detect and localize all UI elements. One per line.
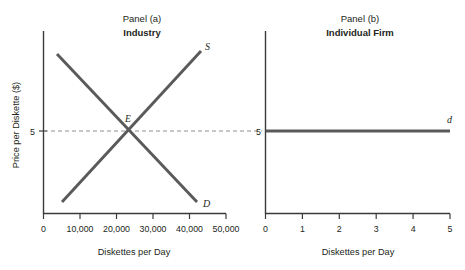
panel-a-x-tick-label-50000: 50,000 — [213, 224, 240, 234]
panel-a-y-tick-label-5: 5 — [30, 127, 35, 137]
panel-b-x-tick-label-0: 0 — [263, 224, 268, 234]
supply-curve-industry — [62, 51, 201, 202]
demand-curve-label: D — [202, 198, 211, 209]
panel-b-x-tick-label-4: 4 — [411, 224, 416, 234]
panel-b-x-axis-title: Diskettes per Day — [322, 247, 395, 257]
panel-a-x-tick-label-20000: 20,000 — [103, 224, 130, 234]
firm-demand-curve-label: d — [447, 114, 453, 125]
supply-demand-figure: Panel (a) Industry 5 0 10,000 20,000 30,… — [0, 0, 465, 270]
equilibrium-point-label: E — [124, 114, 131, 124]
panel-a-x-tick-label-10000: 10,000 — [67, 224, 94, 234]
panel-a-y-axis-title: Price per Diskette ($) — [11, 82, 21, 168]
panel-a-x-axis-title: Diskettes per Day — [98, 247, 171, 257]
panel-b-x-tick-label-1: 1 — [300, 224, 305, 234]
panel-b-x-tick-label-3: 3 — [374, 224, 379, 234]
panel-b-y-tick-label-5: 5 — [256, 127, 261, 137]
supply-curve-label: S — [205, 41, 210, 52]
panel-a-x-tick-label-40000: 40,000 — [176, 224, 203, 234]
panel-a: Panel (a) Industry 5 0 10,000 20,000 30,… — [11, 13, 262, 257]
panel-b-name: Individual Firm — [326, 27, 394, 38]
panel-b: Panel (b) Individual Firm 5 0 1 2 3 4 5 … — [256, 13, 453, 257]
panel-b-label: Panel (b) — [341, 13, 380, 24]
panel-a-x-tick-label-0: 0 — [41, 224, 46, 234]
panel-b-x-tick-label-5: 5 — [448, 224, 453, 234]
panel-a-x-tick-label-30000: 30,000 — [140, 224, 167, 234]
panel-a-name: Industry — [123, 27, 161, 38]
panel-b-x-tick-label-2: 2 — [337, 224, 342, 234]
panel-a-label: Panel (a) — [123, 13, 162, 24]
